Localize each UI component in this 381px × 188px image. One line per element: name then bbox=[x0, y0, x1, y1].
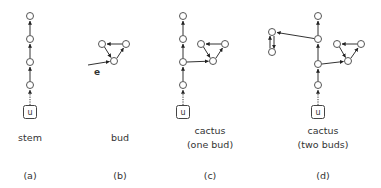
root-label: u bbox=[27, 108, 32, 117]
panel-tag-c: (c) bbox=[204, 170, 217, 181]
panel-tag-d: (d) bbox=[316, 170, 329, 181]
panel-d-cactus-two-buds: u bbox=[269, 13, 365, 119]
root-label: u bbox=[180, 108, 185, 117]
stem-node bbox=[315, 36, 322, 43]
caption-title-c: cactus bbox=[195, 125, 226, 136]
bud-node bbox=[334, 41, 341, 48]
bud-edge bbox=[216, 48, 223, 58]
stem-node bbox=[27, 36, 34, 43]
panel-b-bud: e bbox=[88, 41, 130, 78]
left-bud-node bbox=[269, 29, 276, 36]
stem-node bbox=[180, 13, 187, 20]
bud-edge bbox=[105, 47, 112, 58]
stem-node bbox=[315, 13, 322, 20]
root-label: u bbox=[315, 108, 320, 117]
left-bud-node bbox=[269, 49, 276, 56]
panel-tag-a: (a) bbox=[23, 170, 36, 181]
caption-subtitle-d: (two buds) bbox=[298, 139, 349, 150]
diagram-canvas: u e u bbox=[0, 0, 381, 188]
stem-node bbox=[180, 59, 187, 66]
stem-to-bud-edge bbox=[187, 61, 209, 62]
bud-edge bbox=[351, 48, 358, 58]
bud-node bbox=[210, 58, 217, 65]
bud-node bbox=[345, 58, 352, 65]
stem-node bbox=[27, 82, 34, 89]
stem-node bbox=[315, 82, 322, 89]
stem-node bbox=[180, 82, 187, 89]
bud-edge bbox=[117, 48, 124, 58]
edge-label-e: e bbox=[94, 67, 100, 77]
panel-c-cactus-one-bud: u bbox=[177, 13, 229, 119]
bud-node bbox=[358, 41, 365, 48]
stem-node bbox=[180, 36, 187, 43]
bud-entry-edge-e bbox=[88, 62, 110, 66]
stem-node bbox=[27, 59, 34, 66]
stem-node bbox=[27, 13, 34, 20]
bud-edge bbox=[204, 47, 211, 58]
panel-tag-b: (b) bbox=[113, 170, 126, 181]
stem-to-right-bud-edge bbox=[322, 62, 344, 65]
caption-title-b: bud bbox=[111, 132, 129, 143]
bud-node bbox=[123, 41, 130, 48]
caption-title-a: stem bbox=[18, 132, 42, 143]
bud-edge bbox=[340, 47, 346, 58]
stem-to-left-bud-edge bbox=[277, 33, 314, 39]
caption-title-d: cactus bbox=[308, 125, 339, 136]
panel-a-stem: u bbox=[24, 13, 37, 119]
bud-node bbox=[99, 41, 106, 48]
bud-node bbox=[111, 58, 118, 65]
stem-node bbox=[315, 61, 322, 68]
bud-node bbox=[198, 41, 205, 48]
caption-subtitle-c: (one bud) bbox=[187, 139, 233, 150]
bud-node bbox=[222, 41, 229, 48]
